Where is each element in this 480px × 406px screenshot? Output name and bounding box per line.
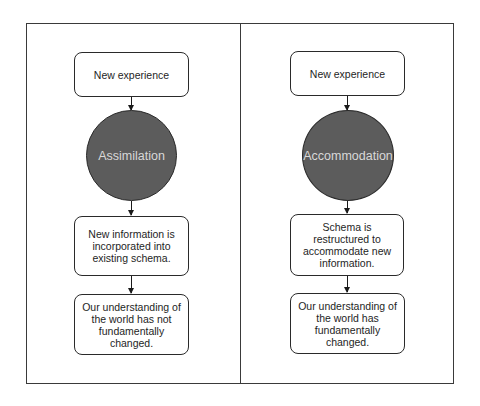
right-arrow-2-icon — [347, 201, 349, 213]
right-new-experience-box: New experience — [290, 51, 405, 96]
right-schema-box: Schema is restructured to accommodate ne… — [290, 214, 404, 276]
accommodation-label: Accommodation — [303, 149, 393, 163]
assimilation-label: Assimilation — [98, 149, 165, 163]
left-schema-label: New information is incorporated into exi… — [88, 228, 174, 264]
left-arrow-2-icon — [131, 201, 133, 215]
left-arrow-1-icon — [131, 97, 133, 110]
left-schema-box: New information is incorporated into exi… — [74, 216, 189, 276]
right-arrow-1-icon — [347, 96, 349, 110]
assimilation-circle: Assimilation — [86, 110, 177, 201]
right-arrow-3-icon — [347, 276, 349, 292]
left-new-experience-box: New experience — [74, 52, 189, 97]
right-new-experience-label: New experience — [310, 68, 385, 80]
right-understanding-label: Our understanding of the world has funda… — [298, 300, 397, 348]
accommodation-circle: Accommodation — [302, 110, 394, 201]
left-new-experience-label: New experience — [94, 69, 169, 81]
left-understanding-label: Our understanding of the world has not f… — [82, 301, 181, 349]
column-divider — [240, 23, 241, 384]
left-understanding-box: Our understanding of the world has not f… — [74, 294, 189, 355]
right-understanding-box: Our understanding of the world has funda… — [290, 293, 405, 354]
right-schema-label: Schema is restructured to accommodate ne… — [303, 221, 391, 269]
left-arrow-3-icon — [131, 276, 133, 293]
